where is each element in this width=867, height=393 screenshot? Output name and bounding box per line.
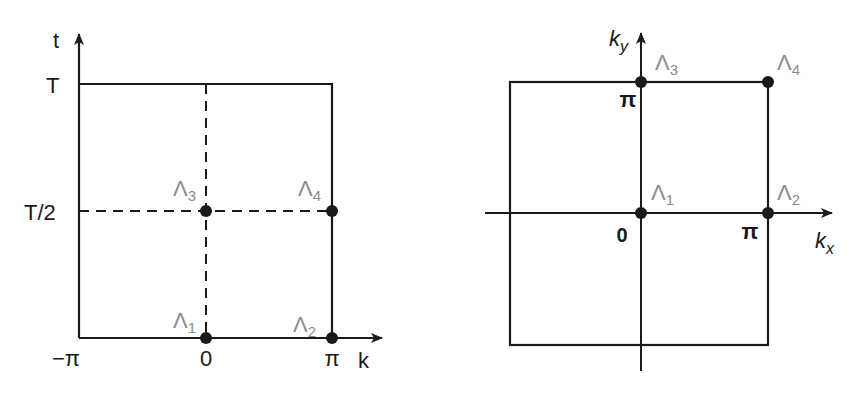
point-lambda3-dot <box>635 76 647 88</box>
tick-T: T <box>46 73 59 98</box>
ky-axis-label: ky <box>609 26 629 55</box>
tick-pi: π <box>324 346 339 371</box>
point-lambda2-dot <box>326 332 338 344</box>
tick-origin-zero: 0 <box>616 224 627 246</box>
point-lambda1-dot <box>200 332 212 344</box>
point-lambda3-dot <box>200 205 212 217</box>
label-lambda4: Λ4 <box>298 176 321 204</box>
label-lambda1: Λ1 <box>173 308 196 336</box>
tick-ky-pi: π <box>620 87 637 112</box>
kx-axis-label: kx <box>815 228 835 257</box>
point-lambda4-dot <box>326 205 338 217</box>
label-lambda2: Λ2 <box>777 180 800 208</box>
label-lambda1: Λ1 <box>651 180 674 208</box>
point-lambda1-dot <box>635 207 647 219</box>
label-lambda2: Λ2 <box>293 312 316 340</box>
tick-minus-pi: −π <box>52 346 80 371</box>
t-axis-label: t <box>53 28 59 53</box>
label-lambda4: Λ4 <box>777 50 800 78</box>
point-lambda4-dot <box>762 76 774 88</box>
tick-kx-pi: π <box>742 219 759 244</box>
label-lambda3: Λ3 <box>655 50 678 78</box>
left-diagram: t k T T/2 −π 0 π Λ1 Λ2 Λ3 Λ4 <box>24 28 382 373</box>
point-lambda2-dot <box>762 207 774 219</box>
tick-T-half: T/2 <box>24 200 56 225</box>
tick-zero: 0 <box>200 346 212 371</box>
right-diagram: ky kx 0 π π Λ1 Λ2 Λ3 Λ4 <box>485 26 835 371</box>
k-axis-label: k <box>358 348 370 373</box>
label-lambda3: Λ3 <box>173 176 196 204</box>
diagram-canvas: t k T T/2 −π 0 π Λ1 Λ2 Λ3 Λ4 ky kx 0 π π <box>0 0 867 393</box>
